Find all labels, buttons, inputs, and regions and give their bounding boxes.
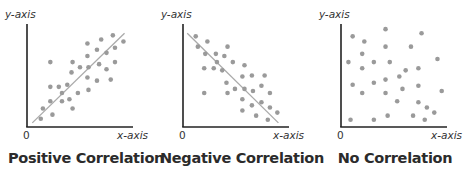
trend-line <box>187 33 278 123</box>
data-point <box>383 77 388 82</box>
data-point <box>383 44 388 49</box>
data-point <box>233 87 238 92</box>
data-point <box>362 39 367 44</box>
data-point <box>350 34 355 39</box>
data-point <box>416 66 421 71</box>
x-axis-label: x-axis <box>430 129 463 141</box>
data-point <box>104 67 109 72</box>
data-point <box>268 91 273 96</box>
title-negative-correlation: Negative Correlation <box>160 150 316 166</box>
data-point <box>108 77 113 82</box>
data-point <box>113 45 118 50</box>
data-point <box>266 117 271 122</box>
data-point <box>48 99 53 104</box>
origin-label: 0 <box>179 129 186 141</box>
data-point <box>411 113 416 118</box>
data-point <box>422 117 427 122</box>
x-axis-label: x-axis <box>116 129 149 141</box>
data-point <box>262 73 267 78</box>
panel-negative-correlation: y-axis x-axis 0 <box>160 8 305 141</box>
data-point <box>85 75 90 80</box>
data-point <box>242 87 247 92</box>
data-point <box>205 39 210 44</box>
data-point <box>240 97 245 102</box>
y-axis-label: y-axis <box>4 8 36 20</box>
origin-label: 0 <box>23 129 30 141</box>
data-point <box>196 44 201 49</box>
data-point <box>240 108 245 113</box>
data-point <box>113 60 118 65</box>
data-point <box>202 91 207 96</box>
data-point <box>403 68 408 73</box>
data-point <box>346 60 351 65</box>
data-point <box>350 82 355 87</box>
data-point <box>203 52 208 57</box>
data-point <box>242 63 247 68</box>
data-point <box>57 85 62 90</box>
data-point <box>231 60 236 65</box>
title-no-correlation: No Correlation <box>330 150 460 166</box>
data-point <box>400 87 405 92</box>
data-point <box>121 39 126 44</box>
data-point <box>254 113 259 118</box>
data-point <box>224 80 229 85</box>
data-point <box>60 99 65 104</box>
data-point <box>85 54 90 59</box>
data-point <box>383 91 388 96</box>
data-point <box>432 110 437 115</box>
data-point <box>86 65 91 70</box>
data-point <box>383 27 388 32</box>
data-point <box>78 65 83 70</box>
title-positive-correlation: Positive Correlation <box>8 150 148 166</box>
data-point <box>397 74 402 79</box>
data-point <box>360 91 365 96</box>
data-point <box>50 112 55 117</box>
data-point <box>222 54 227 59</box>
data-point <box>275 110 280 115</box>
data-point <box>38 116 43 121</box>
data-point <box>360 66 365 71</box>
data-point <box>416 100 421 105</box>
data-point <box>240 74 245 79</box>
data-point <box>348 117 353 122</box>
data-point <box>215 60 220 65</box>
data-point <box>435 57 440 62</box>
data-point <box>211 66 216 71</box>
data-point <box>372 80 377 85</box>
data-point <box>95 47 100 52</box>
data-point <box>250 103 255 108</box>
data-point <box>48 60 53 65</box>
data-point <box>86 88 91 93</box>
data-point <box>85 41 90 46</box>
data-point <box>268 105 273 110</box>
y-axis-label: y-axis <box>318 8 350 20</box>
x-axis-label: x-axis <box>272 129 305 141</box>
data-point <box>67 97 72 102</box>
data-point <box>225 44 230 49</box>
data-point <box>76 91 81 96</box>
data-point <box>202 66 207 71</box>
data-point <box>99 37 104 42</box>
data-point <box>409 44 414 49</box>
data-point <box>111 33 116 38</box>
data-point <box>385 113 390 118</box>
data-point <box>225 91 230 96</box>
data-point <box>250 73 255 78</box>
data-point <box>220 68 225 73</box>
origin-label: 0 <box>337 129 344 141</box>
data-point <box>419 31 424 36</box>
data-point <box>416 84 421 89</box>
correlation-figure: y-axis x-axis 0 y-axis x-axis 0 y-axis x… <box>0 0 472 182</box>
data-point <box>70 106 75 111</box>
data-point <box>48 85 53 90</box>
data-point <box>70 60 75 65</box>
data-point <box>65 82 70 87</box>
data-point <box>372 117 377 122</box>
data-point <box>41 106 46 111</box>
data-point <box>60 91 65 96</box>
data-point <box>104 51 109 56</box>
data-point <box>387 60 392 65</box>
data-point <box>69 70 74 75</box>
data-point <box>97 62 102 67</box>
data-point <box>259 84 264 89</box>
